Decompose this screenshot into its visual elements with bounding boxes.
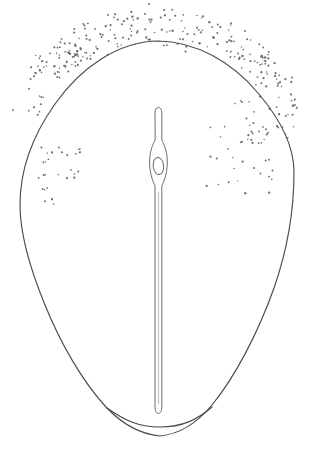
stipple-dot — [245, 117, 247, 119]
stipple-dot — [82, 23, 84, 25]
stipple-dot — [294, 99, 296, 101]
stipple-dot — [154, 32, 155, 33]
stipple-dot — [166, 44, 168, 46]
stipple-dot — [296, 107, 298, 109]
stipple-dot — [122, 37, 124, 39]
stipple-dot — [72, 56, 74, 58]
stipple-dot — [77, 64, 78, 65]
stipple-dot — [73, 32, 75, 34]
stipple-dot — [277, 85, 279, 87]
stipple-dot — [99, 33, 101, 35]
stipple-dot — [30, 66, 32, 68]
stipple-dot — [75, 65, 77, 67]
stipple-dot — [74, 61, 76, 63]
stipple-dot — [233, 41, 235, 43]
stipple-dot — [202, 29, 204, 31]
stipple-dot — [30, 78, 32, 80]
stipple-dot — [263, 139, 264, 140]
stipple-dot — [131, 31, 132, 32]
stipple-dot — [263, 60, 265, 62]
stipple-dot — [59, 67, 60, 68]
stipple-dot — [249, 60, 251, 62]
stipple-dot — [90, 55, 92, 57]
stipple-dot — [45, 161, 47, 163]
stipple-dot — [121, 44, 123, 46]
stipple-dot — [56, 53, 58, 55]
stipple-dot — [184, 27, 186, 29]
stipple-dot — [67, 70, 69, 72]
stipple-dot — [144, 28, 146, 30]
stipple-dot — [291, 100, 293, 102]
stipple-dot — [218, 184, 220, 186]
stipple-dot — [33, 75, 35, 77]
stipple-dot — [262, 57, 264, 59]
stipple-dot — [271, 169, 273, 171]
stipple-dot — [240, 100, 242, 102]
stipple-dot — [137, 30, 139, 32]
stipple-dot — [277, 82, 279, 84]
stipple-dot — [66, 177, 68, 179]
stipple-dot — [224, 126, 226, 128]
stipple-dot — [75, 153, 77, 155]
stipple-dot — [151, 19, 153, 21]
stipple-dot — [95, 46, 97, 48]
stipple-dot — [182, 38, 184, 40]
stipple-dot — [249, 71, 251, 73]
stipple-dot — [163, 9, 165, 11]
stipple-dot — [260, 71, 262, 73]
stipple-dot — [85, 34, 87, 36]
stipple-dot — [292, 105, 294, 107]
stipple-dot — [264, 56, 266, 58]
stipple-dot — [58, 71, 60, 73]
stipple-dot — [179, 38, 181, 40]
stipple-dot — [102, 34, 104, 36]
stipple-dot — [144, 13, 146, 15]
stipple-dot — [244, 192, 246, 194]
stipple-dot — [196, 15, 198, 17]
stipple-dot — [230, 51, 232, 53]
stipple-dot — [293, 126, 294, 127]
stipple-dot — [84, 52, 86, 54]
stipple-dot — [202, 15, 204, 17]
stipple-dot — [260, 82, 262, 84]
stipple-dot — [64, 66, 66, 68]
stipple-dot — [84, 28, 86, 30]
stipple-dot — [217, 24, 219, 26]
stipple-dot — [247, 138, 249, 140]
stipple-dot — [230, 22, 232, 24]
stipple-dot — [59, 41, 61, 43]
stipple-dot — [285, 115, 287, 117]
stipple-dot — [44, 174, 46, 176]
stipple-dot — [174, 15, 176, 17]
stipple-dot — [257, 62, 259, 64]
stipple-dot — [258, 142, 260, 144]
stipple-dot — [80, 48, 82, 50]
stipple-dot — [40, 103, 42, 105]
stipple-dot — [96, 48, 98, 50]
stipple-dot — [268, 192, 270, 194]
stipple-dot — [278, 75, 280, 77]
stipple-dot — [259, 173, 261, 175]
stipple-dot — [212, 36, 214, 38]
stipple-dot — [268, 176, 270, 178]
stipple-dot — [161, 29, 163, 31]
stipple-dot — [206, 46, 207, 47]
stipple-dot — [249, 54, 251, 56]
stipple-dot — [181, 20, 183, 22]
stipple-dot — [171, 9, 173, 11]
stipple-dot — [164, 14, 166, 16]
stipple-dot — [58, 147, 60, 149]
stipple-dot — [241, 46, 242, 47]
stipple-dot — [262, 126, 264, 128]
stipple-dot — [107, 14, 109, 16]
stipple-dot — [108, 40, 110, 42]
stipple-dot — [254, 60, 256, 62]
stipple-dot — [261, 63, 263, 65]
stipple-dot — [57, 76, 59, 78]
stipple-dot — [226, 50, 228, 52]
stipple-dot — [219, 26, 221, 28]
stipple-dot — [182, 14, 184, 16]
stipple-dot — [274, 75, 276, 77]
stipple-dot — [130, 11, 132, 13]
stipple-dot — [252, 122, 254, 124]
